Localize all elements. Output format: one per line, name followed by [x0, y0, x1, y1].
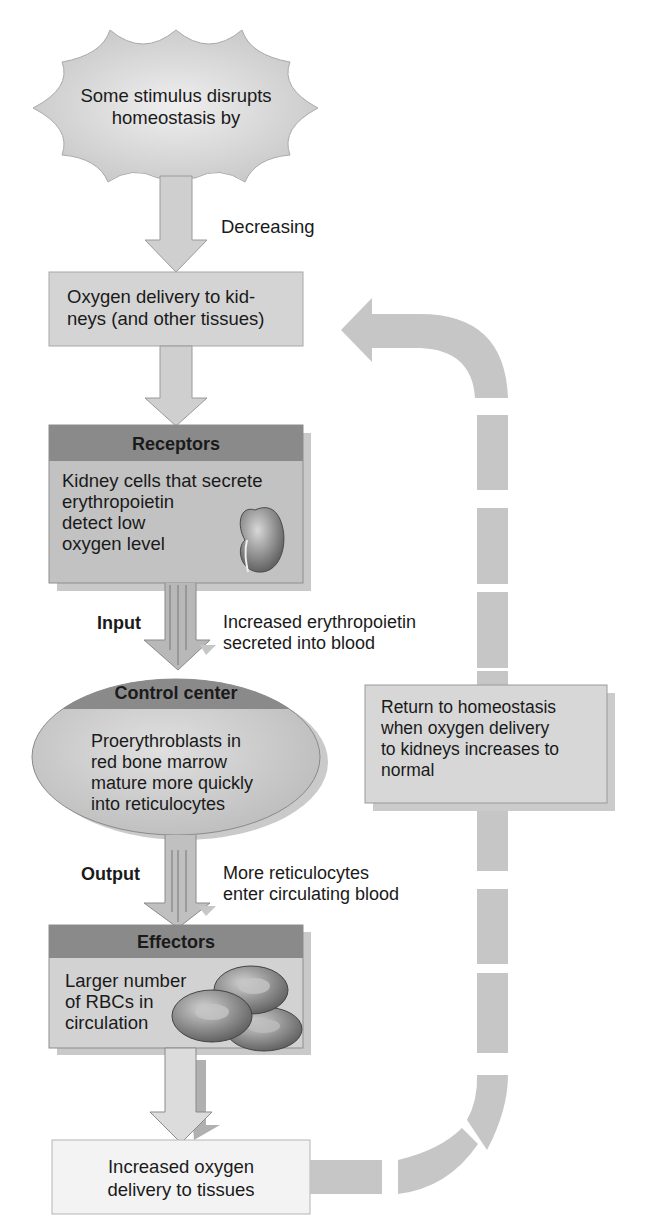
arrow-decreasing: [145, 176, 207, 272]
output-line-2: enter circulating blood: [223, 884, 399, 905]
control-center-line-4: into reticulocytes: [91, 794, 253, 815]
receptors-line-4: oxygen level: [62, 533, 263, 554]
stimulus-line-2: homeostasis by: [60, 107, 292, 129]
feedback-line-4: normal: [381, 760, 559, 781]
control-center-text: Proerythroblasts in red bone marrow matu…: [91, 731, 253, 815]
control-center-header: Control center: [32, 682, 320, 704]
receptors-line-1: Kidney cells that secrete: [62, 470, 263, 491]
receptors-line-3: detect low: [62, 512, 263, 533]
input-line-2: secreted into blood: [223, 633, 416, 654]
response-line-2: delivery to tissues: [52, 1178, 310, 1201]
input-line-1: Increased erythropoietin: [223, 612, 416, 633]
input-arrow: [144, 583, 216, 670]
feedback-line-1: Return to homeostasis: [381, 697, 559, 718]
feedback-text: Return to homeostasis when oxygen delive…: [381, 697, 559, 781]
feedback-line-2: when oxygen delivery: [381, 718, 559, 739]
stimulus-line-1: Some stimulus disrupts: [60, 85, 292, 107]
effectors-line-2: of RBCs in: [65, 991, 186, 1012]
receptors-text: Kidney cells that secrete erythropoietin…: [62, 470, 263, 554]
effectors-line-3: circulation: [65, 1012, 186, 1033]
stimulus-text: Some stimulus disrupts homeostasis by: [60, 85, 292, 129]
input-description: Increased erythropoietin secreted into b…: [223, 612, 416, 654]
arrow-to-response: [150, 1048, 220, 1143]
arrow-to-receptors: [145, 346, 207, 426]
control-center-line-1: Proerythroblasts in: [91, 731, 253, 752]
output-arrow: [144, 835, 216, 928]
effectors-header: Effectors: [49, 931, 303, 953]
effectors-text: Larger number of RBCs in circulation: [65, 970, 186, 1033]
response-line-1: Increased oxygen: [52, 1155, 310, 1178]
control-center-line-3: mature more quickly: [91, 773, 253, 794]
receptors-header: Receptors: [49, 433, 303, 455]
output-description: More reticulocytes enter circulating blo…: [223, 863, 399, 905]
decreasing-label: Decreasing: [221, 216, 315, 238]
response-text: Increased oxygen delivery to tissues: [52, 1155, 310, 1201]
controlled-condition-text: Oxygen delivery to kid- neys (and other …: [67, 286, 264, 330]
controlled-condition-line-2: neys (and other tissues): [67, 308, 264, 330]
receptors-line-2: erythropoietin: [62, 491, 263, 512]
effectors-line-1: Larger number: [65, 970, 186, 991]
output-label: Output: [81, 863, 140, 885]
input-label: Input: [97, 612, 141, 634]
output-line-1: More reticulocytes: [223, 863, 399, 884]
feedback-line-3: to kidneys increases to: [381, 739, 559, 760]
control-center-line-2: red bone marrow: [91, 752, 253, 773]
controlled-condition-line-1: Oxygen delivery to kid-: [67, 286, 264, 308]
